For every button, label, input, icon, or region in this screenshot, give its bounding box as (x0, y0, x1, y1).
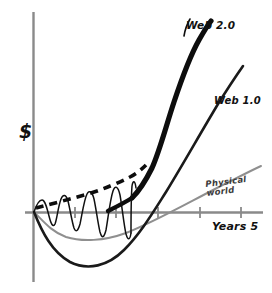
series-label-web20: Web 2.0 (186, 20, 235, 31)
chart-canvas: $ Web 2.0 Web 1.0 Physical world Years 5 (0, 0, 272, 293)
x-axis-label: Years 5 (212, 221, 258, 233)
series-line-web20 (132, 21, 211, 198)
series-line-oscillation-spike (131, 182, 136, 233)
sketch-drawing (0, 0, 272, 293)
axis-group (25, 12, 263, 282)
series-label-web10: Web 1.0 (214, 96, 261, 107)
y-axis-label: $ (19, 122, 32, 142)
